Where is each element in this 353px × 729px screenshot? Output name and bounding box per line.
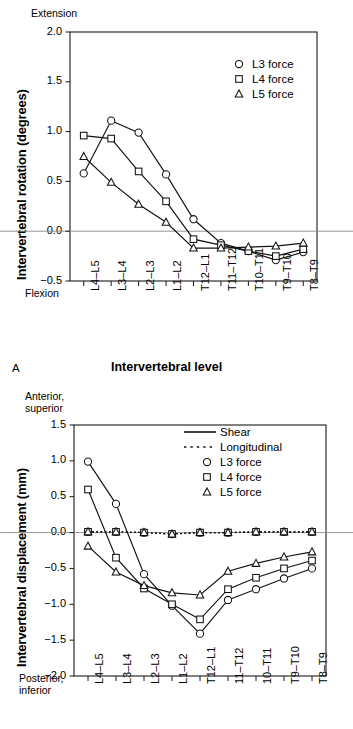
legend-solid-line-icon xyxy=(183,425,217,439)
page-edge-fragment xyxy=(341,602,353,615)
data-point-1-3 xyxy=(169,601,176,608)
data-point-1-3 xyxy=(163,198,170,205)
data-point-1-7 xyxy=(273,253,280,260)
data-point-2-8 xyxy=(300,239,308,246)
legend-item-4: L5 force xyxy=(183,485,282,499)
legend-item-1: Longitudinal xyxy=(183,440,282,454)
legend-item-label: L5 force xyxy=(217,486,262,498)
data-point-2-0 xyxy=(80,152,88,159)
data-point-0-0 xyxy=(84,458,91,465)
legend-square-icon xyxy=(236,76,243,83)
legend-dotted-line-icon xyxy=(183,440,217,454)
data-point-1-8 xyxy=(309,557,316,564)
data-point-1-6 xyxy=(253,574,260,581)
data-point-2-0 xyxy=(84,542,92,549)
legend-item-label: Longitudinal xyxy=(217,441,282,453)
x-axis-title: Intervertebral level xyxy=(111,360,222,374)
rotation-plot-area xyxy=(0,0,353,300)
data-point-0-5 xyxy=(224,596,231,603)
legend-item-label: L4 force xyxy=(249,73,294,85)
data-point-1-8 xyxy=(300,246,307,253)
legend-item-label: L3 force xyxy=(217,456,262,468)
data-point-0-1 xyxy=(108,117,115,124)
data-point-0-1 xyxy=(112,500,119,507)
data-point-0-2 xyxy=(135,129,142,136)
legend-triangle-icon xyxy=(203,488,211,495)
data-point-0-2 xyxy=(140,571,147,578)
data-point-1-2 xyxy=(135,168,142,175)
legend-item-3: L4 force xyxy=(183,470,282,484)
data-point-0-0 xyxy=(80,170,87,177)
legend-item-0: Shear xyxy=(183,425,282,439)
panel-a-rotation-chart: Extension Flexion Intervertebral rotatio… xyxy=(0,0,353,385)
data-point-1-4 xyxy=(197,616,204,623)
data-point-2-3 xyxy=(162,218,170,225)
legend-item-label: L3 force xyxy=(249,58,294,70)
data-point-1-5 xyxy=(225,586,232,593)
displacement-plot-area xyxy=(0,385,353,685)
data-point-0-7 xyxy=(280,575,287,582)
data-point-1-1 xyxy=(108,135,115,142)
legend-item-label: L5 force xyxy=(249,88,294,100)
series-line-1 xyxy=(88,490,312,620)
legend-panel-b: ShearLongitudinalL3 forceL4 forceL5 forc… xyxy=(183,425,282,500)
legend-square-icon xyxy=(204,474,211,481)
data-point-1-0 xyxy=(85,486,92,493)
data-point-0-4 xyxy=(196,630,203,637)
series-line-2 xyxy=(84,157,304,249)
data-point-0-3 xyxy=(162,171,169,178)
legend-panel-a: L3 forceL4 forceL5 force xyxy=(215,57,294,102)
legend-item-label: L4 force xyxy=(217,471,262,483)
legend-square-marker-icon xyxy=(215,72,249,86)
legend-circle-icon xyxy=(235,60,242,67)
legend-circle-marker-icon xyxy=(183,455,217,469)
legend-item-0: L3 force xyxy=(215,57,294,71)
legend-circle-icon xyxy=(203,458,210,465)
data-point-0-8 xyxy=(308,565,315,572)
legend-item-2: L3 force xyxy=(183,455,282,469)
data-point-0-6 xyxy=(252,586,259,593)
data-point-2-2 xyxy=(135,200,143,207)
legend-item-2: L5 force xyxy=(215,87,294,101)
panel-letter-a: A xyxy=(12,362,20,374)
data-point-2-8 xyxy=(308,548,316,555)
legend-square-marker-icon xyxy=(183,470,217,484)
data-point-1-0 xyxy=(80,132,87,139)
legend-item-1: L4 force xyxy=(215,72,294,86)
data-point-1-4 xyxy=(190,236,197,243)
legend-triangle-marker-icon xyxy=(215,87,249,101)
data-point-1-1 xyxy=(113,554,120,561)
legend-triangle-marker-icon xyxy=(183,485,217,499)
legend-item-label: Shear xyxy=(217,426,251,438)
legend-triangle-icon xyxy=(235,90,243,97)
panel-b-displacement-chart: Anterior, superior Posterior, inferior I… xyxy=(0,385,353,729)
legend-circle-marker-icon xyxy=(215,57,249,71)
data-point-0-4 xyxy=(190,216,197,223)
data-point-1-7 xyxy=(281,565,288,572)
